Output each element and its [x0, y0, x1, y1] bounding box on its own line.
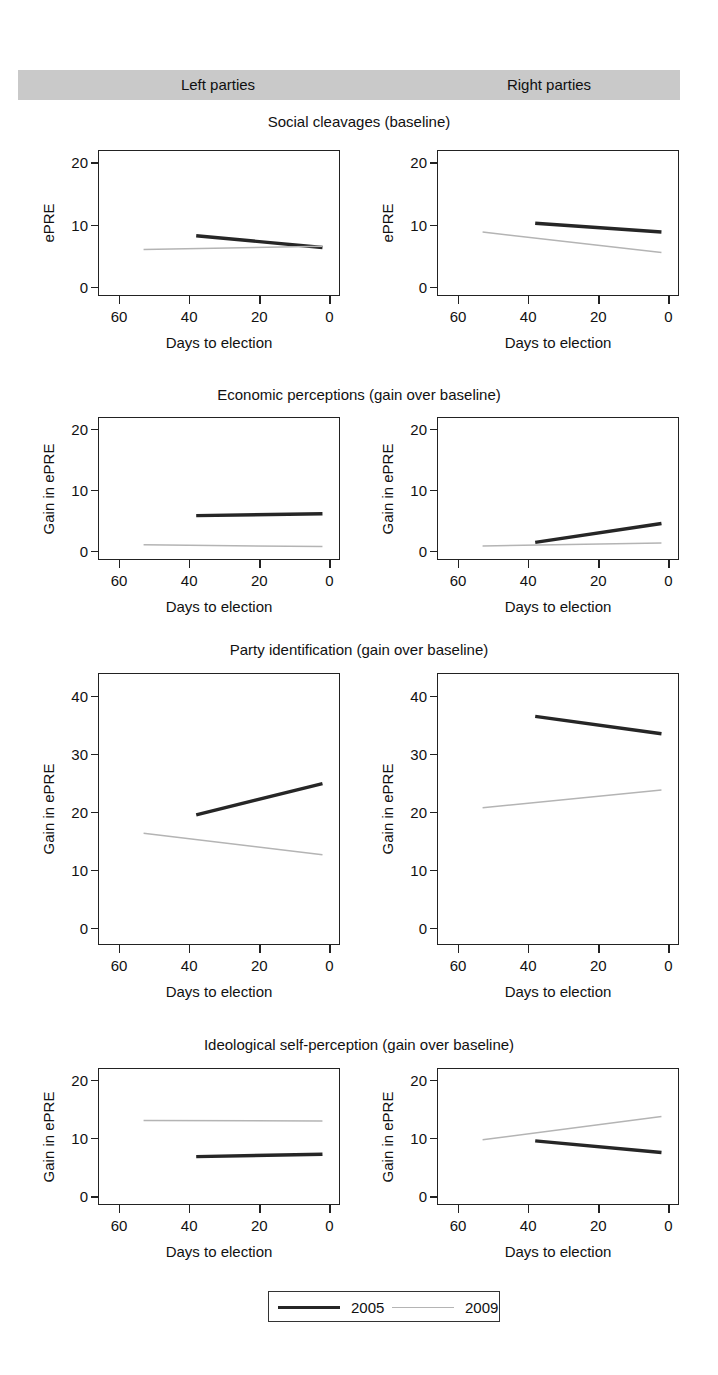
- y-axis-tick-label: 10: [71, 482, 88, 499]
- x-axis-tick: [329, 945, 330, 953]
- x-axis-tick-label: 20: [590, 1217, 607, 1234]
- y-axis-tick: [91, 287, 98, 288]
- y-axis-tick-label: 0: [80, 919, 88, 936]
- y-axis-tick: [430, 429, 437, 430]
- x-axis-tick-label: 20: [251, 572, 268, 589]
- y-axis-tick: [430, 1196, 437, 1197]
- y-axis-title: ePRE: [379, 203, 396, 242]
- y-axis-tick: [91, 551, 98, 552]
- x-axis-tick-label: 20: [251, 1217, 268, 1234]
- series-line-2005: [196, 236, 322, 248]
- x-axis-tick-label: 0: [664, 1217, 672, 1234]
- y-axis-tick-label: 20: [71, 421, 88, 438]
- panel-party-identification-gain-over-baseline-right-parties: 0102030406040200Gain in ePREDays to elec…: [437, 673, 679, 945]
- x-axis-tick: [598, 945, 599, 953]
- x-axis-tick-label: 60: [111, 957, 128, 974]
- x-axis-title: Days to election: [505, 983, 612, 1000]
- x-axis-tick: [528, 945, 529, 953]
- x-axis-tick-label: 20: [251, 308, 268, 325]
- x-axis-tick-label: 0: [325, 957, 333, 974]
- x-axis-tick-label: 0: [664, 957, 672, 974]
- y-axis-tick-label: 0: [419, 919, 427, 936]
- y-axis-tick-label: 0: [80, 542, 88, 559]
- series-line-2009: [483, 1116, 662, 1139]
- y-axis-tick: [430, 928, 437, 929]
- legend-swatch-2005-icon: [278, 1306, 340, 1309]
- series-line-2009: [483, 543, 662, 546]
- y-axis-title: Gain in ePRE: [379, 443, 396, 534]
- x-axis-tick-label: 20: [590, 308, 607, 325]
- y-axis-tick: [430, 870, 437, 871]
- y-axis-tick-label: 20: [71, 1071, 88, 1088]
- y-axis-tick: [91, 1138, 98, 1139]
- x-axis-tick-label: 60: [111, 308, 128, 325]
- y-axis-tick: [430, 1138, 437, 1139]
- legend-label-2009: 2009: [465, 1299, 498, 1316]
- x-axis-tick-label: 60: [111, 1217, 128, 1234]
- series-line-2005: [535, 1141, 661, 1153]
- y-axis-tick-label: 20: [410, 154, 427, 171]
- y-axis-tick-label: 20: [410, 421, 427, 438]
- y-axis-tick: [91, 225, 98, 226]
- x-axis-title: Days to election: [166, 983, 273, 1000]
- y-axis-tick-label: 10: [410, 216, 427, 233]
- x-axis-tick: [458, 1205, 459, 1213]
- x-axis-tick: [189, 296, 190, 304]
- row-title-economic-perceptions: Economic perceptions (gain over baseline…: [0, 386, 718, 403]
- panel-party-identification-gain-over-baseline-left-parties: 0102030406040200Gain in ePREDays to elec…: [98, 673, 340, 945]
- y-axis-tick: [91, 1196, 98, 1197]
- y-axis-tick-label: 40: [410, 688, 427, 705]
- x-axis-tick: [598, 560, 599, 568]
- x-axis-tick-label: 40: [181, 957, 198, 974]
- y-axis-tick: [430, 490, 437, 491]
- x-axis-tick: [259, 1205, 260, 1213]
- panel-economic-perceptions-gain-over-baseline-right-parties: 010206040200Gain in ePREDays to election: [437, 417, 679, 560]
- x-axis-tick-label: 40: [520, 308, 537, 325]
- x-axis-tick-label: 40: [181, 308, 198, 325]
- series-line-2005: [196, 1154, 322, 1156]
- y-axis-title: Gain in ePRE: [379, 1091, 396, 1182]
- y-axis-tick: [430, 754, 437, 755]
- y-axis-tick: [430, 1080, 437, 1081]
- y-axis-tick-label: 10: [71, 216, 88, 233]
- x-axis-tick: [458, 296, 459, 304]
- series-layer: [98, 1068, 340, 1205]
- y-axis-title: Gain in ePRE: [40, 764, 57, 855]
- x-axis-title: Days to election: [166, 598, 273, 615]
- series-line-2009: [144, 545, 323, 547]
- x-axis-tick-label: 40: [520, 572, 537, 589]
- panel-ideological-self-perception-gain-over-baseline-left-parties: 010206040200Gain in ePREDays to election: [98, 1068, 340, 1205]
- x-axis-tick: [259, 296, 260, 304]
- x-axis-tick: [189, 1205, 190, 1213]
- series-line-2005: [535, 716, 661, 733]
- series-line-2005: [535, 523, 661, 542]
- y-axis-tick-label: 0: [419, 542, 427, 559]
- y-axis-tick-label: 30: [71, 746, 88, 763]
- y-axis-tick-label: 10: [71, 861, 88, 878]
- series-line-2005: [196, 784, 322, 815]
- legend-item-2005: 2005: [278, 1292, 384, 1323]
- x-axis-tick: [259, 945, 260, 953]
- x-axis-tick: [528, 1205, 529, 1213]
- x-axis-tick: [189, 560, 190, 568]
- x-axis-title: Days to election: [505, 598, 612, 615]
- y-axis-tick: [91, 490, 98, 491]
- x-axis-tick: [189, 945, 190, 953]
- x-axis-tick: [119, 296, 120, 304]
- x-axis-tick: [329, 560, 330, 568]
- y-axis-tick: [430, 225, 437, 226]
- x-axis-tick-label: 60: [450, 1217, 467, 1234]
- row-title-ideological-self-perception: Ideological self-perception (gain over b…: [0, 1036, 718, 1053]
- x-axis-tick-label: 20: [590, 572, 607, 589]
- row-title-party-identification: Party identification (gain over baseline…: [0, 641, 718, 658]
- x-axis-title: Days to election: [166, 1243, 273, 1260]
- series-line-2009: [144, 1120, 323, 1121]
- series-layer: [437, 673, 679, 945]
- y-axis-title: Gain in ePRE: [40, 1091, 57, 1182]
- x-axis-tick-label: 0: [325, 1217, 333, 1234]
- y-axis-tick: [91, 162, 98, 163]
- x-axis-tick-label: 0: [664, 308, 672, 325]
- x-axis-tick: [528, 296, 529, 304]
- series-line-2009: [483, 790, 662, 808]
- x-axis-tick-label: 20: [590, 957, 607, 974]
